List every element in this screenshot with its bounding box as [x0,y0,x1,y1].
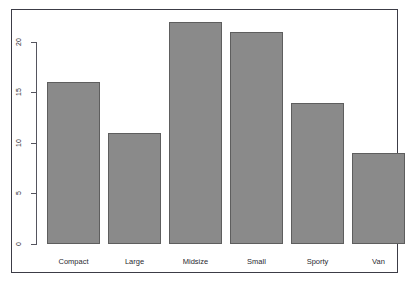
y-tick-mark-15 [31,92,37,93]
bar-midsize[interactable] [169,22,222,244]
bar-small[interactable] [230,32,283,244]
x-label-van: Van [352,257,405,266]
y-tick-mark-0 [31,244,37,245]
y-tick-label-15: 15 [15,81,23,103]
y-tick-label-10: 10 [15,132,23,154]
bar-compact[interactable] [47,82,100,244]
bar-van[interactable] [352,153,405,244]
bar-large[interactable] [108,133,161,244]
x-label-sporty: Sporty [291,257,344,266]
chart-screenshot: 20 15 10 5 0 Compact Large Midsize Small… [0,0,410,282]
y-tick-label-20: 20 [15,31,23,53]
y-tick-mark-10 [31,143,37,144]
plot-frame: 20 15 10 5 0 Compact Large Midsize Small… [11,9,398,273]
x-label-large: Large [108,257,161,266]
x-label-small: Small [230,257,283,266]
plot-region: 20 15 10 5 0 Compact Large Midsize Small… [12,10,397,272]
x-label-compact: Compact [47,257,100,266]
y-tick-label-5: 5 [15,182,23,204]
y-tick-label-0: 0 [15,233,23,255]
x-label-midsize: Midsize [169,257,222,266]
bar-sporty[interactable] [291,103,344,244]
y-tick-mark-20 [31,42,37,43]
y-tick-mark-5 [31,193,37,194]
